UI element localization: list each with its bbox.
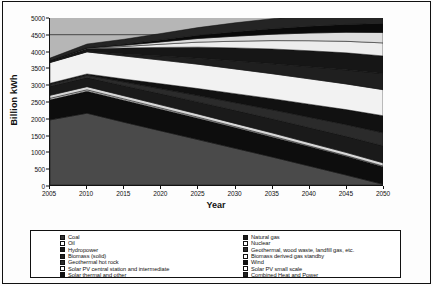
legend-column-left: CoalOilHydropowerBiomass (solid)Geotherm…	[60, 234, 169, 278]
plot-svg	[50, 18, 383, 185]
x-tick-label: 2005	[42, 190, 56, 197]
legend-label: Combined Heat and Power	[251, 272, 318, 278]
y-tick-label: 500	[34, 166, 45, 173]
y-axis-title-text: Billion kWh	[9, 74, 19, 125]
legend-label: Geothermal, wood waste, landfill gas, et…	[251, 247, 354, 253]
x-tick-mark	[123, 186, 124, 189]
y-tick-label: 3000	[31, 82, 45, 89]
legend-label: Hydropower	[68, 247, 98, 253]
x-tick-label: 2030	[228, 190, 242, 197]
legend-label: Oil	[68, 240, 75, 246]
stacked-area-chart: Billion kWh 0500100015002000250030003500…	[3, 2, 430, 217]
legend-swatch	[243, 247, 248, 252]
figure-frame: Billion kWh 0500100015002000250030003500…	[2, 1, 431, 284]
x-tick-mark	[309, 186, 310, 189]
x-tick-label: 2010	[79, 190, 93, 197]
legend-label: Wind	[251, 259, 264, 265]
x-tick-label: 2050	[376, 190, 390, 197]
x-tick-mark	[197, 186, 198, 189]
y-tick-label: 1500	[31, 132, 45, 139]
x-tick-mark	[272, 186, 273, 189]
x-tick-mark	[235, 186, 236, 189]
x-tick-mark	[160, 186, 161, 189]
x-tick-mark	[86, 186, 87, 189]
y-tick-label: 2000	[31, 115, 45, 122]
legend-label: Solar PV small scale	[251, 266, 302, 272]
x-tick-label: 2020	[153, 190, 167, 197]
legend-swatch	[60, 266, 65, 271]
legend-item[interactable]: Combined Heat and Power	[243, 272, 354, 278]
legend-label: Biomass derived gas standby	[251, 253, 324, 259]
legend-swatch	[60, 254, 65, 259]
x-tick-mark	[346, 186, 347, 189]
x-tick-label: 2015	[116, 190, 130, 197]
legend-swatch	[60, 272, 65, 277]
y-axis-title: Billion kWh	[6, 30, 22, 170]
chart-legend: CoalOilHydropowerBiomass (solid)Geotherm…	[30, 230, 401, 278]
legend-label: Biomass (solid)	[68, 253, 106, 259]
x-tick-label: 2040	[302, 190, 316, 197]
legend-swatch	[243, 266, 248, 271]
plot-area	[49, 18, 383, 186]
legend-swatch	[243, 241, 248, 246]
x-tick-label: 2035	[265, 190, 279, 197]
y-tick-label: 2500	[31, 99, 45, 106]
y-tick-label: 3500	[31, 65, 45, 72]
y-tick-label: 5000	[31, 15, 45, 22]
x-tick-label: 2025	[190, 190, 204, 197]
legend-item[interactable]: Solar thermal and other	[60, 272, 169, 278]
legend-swatch	[60, 241, 65, 246]
legend-label: Geothermal hot rock	[68, 259, 119, 265]
y-tick-label: 0	[41, 183, 45, 190]
y-axis-ticks: 0500100015002000250030003500400045005000	[21, 18, 49, 186]
legend-label: Coal	[68, 234, 80, 240]
legend-label: Natural gas	[251, 234, 280, 240]
legend-swatch	[243, 254, 248, 259]
legend-label: Solar PV central station and intermediat…	[68, 266, 169, 272]
y-tick-label: 4000	[31, 48, 45, 55]
legend-swatch	[243, 272, 248, 277]
legend-swatch	[60, 260, 65, 265]
y-tick-label: 4500	[31, 31, 45, 38]
legend-swatch	[243, 235, 248, 240]
legend-swatch	[60, 247, 65, 252]
y-tick-label: 1000	[31, 149, 45, 156]
x-tick-mark	[383, 186, 384, 189]
x-tick-mark	[49, 186, 50, 189]
x-tick-label: 2045	[339, 190, 353, 197]
legend-swatch	[60, 235, 65, 240]
legend-label: Nuclear	[251, 240, 270, 246]
x-axis-title: Year	[49, 200, 383, 210]
legend-column-right: Natural gasNuclearGeothermal, wood waste…	[243, 234, 354, 278]
legend-swatch	[243, 260, 248, 265]
legend-label: Solar thermal and other	[68, 272, 126, 278]
